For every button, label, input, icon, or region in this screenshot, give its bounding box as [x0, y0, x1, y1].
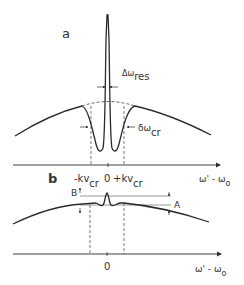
- panel-b: b B A 0 ω' - ωo: [13, 171, 227, 278]
- marker-b-label: B: [71, 188, 77, 198]
- panel-a: a Δωres δωcr -kvcr 0 +kvcr ω' - ωo: [13, 15, 231, 189]
- diagram-canvas: a Δωres δωcr -kvcr 0 +kvcr ω' - ωo b B A…: [0, 0, 244, 285]
- panel-a-axis-label: ω' - ωo: [199, 174, 231, 188]
- panel-a-dashed-envelope: [82, 102, 135, 107]
- tick-zero-b: 0: [104, 261, 110, 272]
- marker-a-label: A: [174, 200, 181, 210]
- tick-zero-a: 0: [104, 173, 110, 184]
- panel-b-label: b: [48, 171, 57, 186]
- tick-plus-kvcr: +kvcr: [113, 173, 144, 189]
- tick-minus-kvcr: -kvcr: [74, 173, 100, 189]
- res-width-label: Δωres: [122, 69, 149, 82]
- panel-a-spectrum-curve: [15, 15, 211, 151]
- cr-width-label: δωcr: [138, 123, 162, 138]
- panel-a-label: a: [62, 26, 70, 41]
- panel-b-axis-label: ω' - ωo: [195, 264, 227, 278]
